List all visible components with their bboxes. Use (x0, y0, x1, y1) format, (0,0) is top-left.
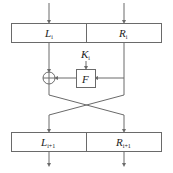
top-block: Li Ri (12, 24, 162, 43)
feistel-round-diagram: Li Ri Ki F Li+1 Ri+1 (0, 0, 173, 173)
xor-icon (43, 72, 55, 84)
bottom-block: Li+1 Ri+1 (12, 133, 162, 152)
cross-line-left-to-right (49, 95, 124, 131)
f-function-label: F (81, 73, 89, 85)
round-key-label: Ki (80, 48, 90, 61)
cross-line-right-to-left (49, 95, 124, 131)
